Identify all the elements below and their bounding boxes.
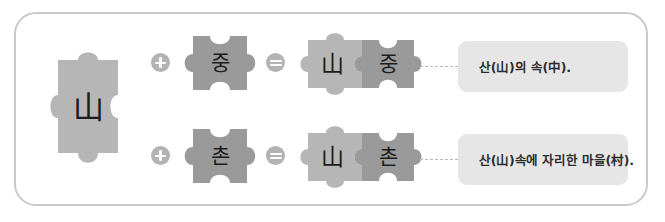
equals-icon-row-2 (266, 146, 285, 165)
connector-line-row-1 (420, 66, 458, 67)
caption-sanchon: 산(山)속에 자리한 마을(村). (458, 134, 628, 185)
caption-sanchon-text: 산(山)속에 자리한 마을(村). (479, 150, 634, 169)
result-piece-sanchon-left-label: 山 (321, 144, 344, 170)
connector-line-row-2 (420, 159, 458, 160)
caption-sanjung: 산(山)의 속(中). (458, 41, 628, 92)
chon-piece-shape: 촌 (180, 121, 260, 191)
result-piece-sanchon: 山 촌 (294, 117, 426, 197)
chon-piece: 촌 (180, 121, 260, 191)
jung-piece-label: 중 (211, 51, 230, 75)
result-piece-sanjung: 山 중 (294, 24, 426, 104)
result-piece-sanchon-right-label: 촌 (379, 145, 398, 169)
result-piece-sanjung-left-label: 山 (321, 51, 344, 77)
mountain-piece: 山 (40, 50, 136, 170)
result-piece-sanchon-shape: 山 촌 (294, 117, 426, 197)
mountain-piece-shape: 山 (40, 50, 136, 170)
plus-icon-row-2 (151, 146, 170, 165)
equals-icon-row-1 (266, 53, 285, 72)
result-piece-sanjung-shape: 山 중 (294, 24, 426, 104)
caption-sanjung-text: 산(山)의 속(中). (479, 57, 571, 76)
result-piece-sanjung-right-label: 중 (379, 52, 398, 76)
mountain-piece-label: 山 (73, 89, 104, 125)
jung-piece: 중 (180, 28, 260, 98)
chon-piece-label: 촌 (211, 144, 230, 168)
puzzle-diagram-stage: 山 중 山 중 산(山)의 속(中). (0, 0, 665, 222)
jung-piece-shape: 중 (180, 28, 260, 98)
plus-icon-row-1 (151, 53, 170, 72)
